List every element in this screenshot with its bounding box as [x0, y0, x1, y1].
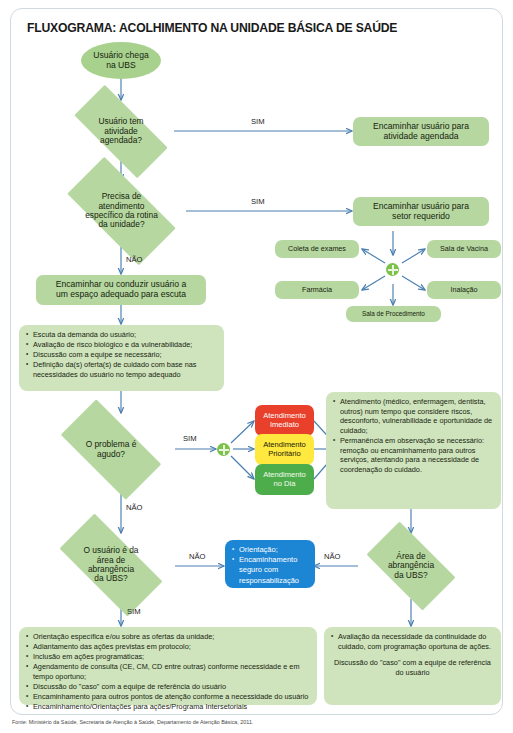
box-atendimento-prioritario[interactable]: Atendimento Prioritário [255, 434, 314, 465]
edge-label-sim-3: SIM [183, 434, 197, 443]
list-continuidade-cuidado-items: Avaliação da necessidade da continuidade… [331, 632, 494, 678]
list-item: Discussão com a equipe se necessário; [26, 350, 217, 360]
box-sala-de-vacina-label: Sala de Vacina [440, 245, 488, 253]
box-encaminhar-setor-requerido-label: Encaminhar usuário para setor requerido [373, 202, 469, 221]
list-item: Encaminhamento/Orientações para ações/Pr… [26, 702, 310, 712]
list-item: Permanência em observação se necessário:… [333, 436, 494, 475]
triage-hub-left-icon [217, 443, 230, 456]
list-escuta-acoes-items: Escuta da demanda do usuário; Avaliação … [26, 330, 217, 380]
node-start[interactable]: Usuário chega na UBS [81, 42, 161, 79]
box-encaminhar-espaco-escuta[interactable]: Encaminhar ou conduzir usuário a um espa… [36, 275, 206, 305]
node-decision-problema-agudo-label: O problema é agudo? [80, 440, 143, 459]
box-encaminhar-setor-requerido[interactable]: Encaminhar usuário para setor requerido [353, 197, 489, 226]
list-item: Encaminhamento seguro com responsabiliza… [232, 555, 308, 586]
list-continuidade-cuidado[interactable]: Avaliação da necessidade da continuidade… [324, 627, 501, 705]
list-item: Atendimento (médico, enfermagem, dentist… [333, 397, 494, 436]
flowchart-stage: Usuário chega na UBS Usuário tem ativida… [11, 9, 503, 715]
box-atendimento-no-dia-label: Atendimento no Dia [263, 471, 306, 488]
box-encaminhar-espaco-escuta-label: Encaminhar ou conduzir usuário a um espa… [56, 280, 186, 299]
box-atendimento-prioritario-label: Atendimento Prioritário [263, 441, 306, 458]
box-atendimento-no-dia[interactable]: Atendimento no Dia [255, 464, 314, 495]
box-sala-de-vacina[interactable]: Sala de Vacina [427, 240, 501, 258]
list-item: Escuta da demanda do usuário; [26, 330, 217, 340]
edge-label-nao-1: NÃO [126, 255, 142, 264]
edge-label-nao-4: NÃO [324, 552, 340, 561]
box-orientacao-encaminhamento[interactable]: Orientação; Encaminhamento seguro com re… [225, 540, 315, 588]
list-atendimento-agudo[interactable]: Atendimento (médico, enfermagem, dentist… [326, 392, 501, 509]
list-acoes-usuario-adscrito-items: Orientação específica e/ou sobre as ofer… [26, 632, 310, 712]
list-item: Adiantamento das ações previstas em prot… [26, 642, 310, 652]
list-item: Orientação; [232, 545, 308, 555]
edge-label-sim-1: SIM [251, 117, 265, 126]
list-item: Inclusão em ações programáticas; [26, 652, 310, 662]
box-inalacao-label: Inalação [450, 286, 477, 294]
list-acoes-usuario-adscrito[interactable]: Orientação específica e/ou sobre as ofer… [19, 627, 317, 705]
box-inalacao[interactable]: Inalação [427, 281, 501, 299]
box-atendimento-imediato-label: Atendimento Imediato [263, 412, 306, 429]
list-item: Avaliação de risco biológico e da vulner… [26, 340, 217, 350]
box-farmacia[interactable]: Farmácia [275, 281, 359, 299]
box-sala-de-procedimento[interactable]: Sala de Procedimento [346, 306, 441, 322]
node-decision-atividade-agendada-label: Usuário tem atividade agendada? [92, 117, 149, 145]
list-item: Discussão do "caso" com a equipe de refe… [26, 682, 310, 692]
node-decision-problema-agudo[interactable]: O problema é agudo? [46, 414, 176, 485]
edge-label-nao-2: NÃO [126, 503, 142, 512]
edge-label-sim-4: SIM [127, 607, 141, 616]
list-item: Avaliação da necessidade da continuidade… [331, 632, 494, 651]
sector-hub-icon [386, 263, 399, 276]
edge-label-sim-2: SIM [251, 197, 265, 206]
list-item: Definição da(s) oferta(s) de cuidado com… [26, 360, 217, 379]
list-item: Encaminhamento para outros pontos de ate… [26, 692, 310, 702]
box-orientacao-items: Orientação; Encaminhamento seguro com re… [232, 545, 308, 586]
node-decision-atividade-agendada[interactable]: Usuário tem atividade agendada? [58, 101, 184, 162]
node-decision-area-abrangencia-ubs-label: Área de abrangência da UBS? [382, 552, 440, 580]
node-start-label: Usuário chega na UBS [93, 51, 148, 70]
list-escuta-acoes[interactable]: Escuta da demanda do usuário; Avaliação … [19, 325, 224, 391]
box-farmacia-label: Farmácia [302, 286, 332, 294]
list-item: Agendamento de consulta (CE, CM, CD entr… [26, 662, 310, 681]
box-encaminhar-atividade-agendada[interactable]: Encaminhar usuário para atividade agenda… [353, 117, 489, 146]
list-atendimento-agudo-items: Atendimento (médico, enfermagem, dentist… [333, 397, 494, 475]
list-item-plain: Discussão do "caso" com a equipe de refe… [331, 658, 494, 677]
flowchart-card: FLUXOGRAMA: ACOLHIMENTO NA UNIDADE BÁSIC… [10, 8, 503, 715]
node-decision-atendimento-rotina[interactable]: Precisa de atendimento específico da rot… [50, 174, 193, 248]
node-decision-usuario-area-abrangencia-label: O usuário é da área de abrangência da UB… [78, 546, 145, 584]
edge-label-nao-3: NÃO [189, 552, 205, 561]
node-decision-atendimento-rotina-label: Precisa de atendimento específico da rot… [79, 192, 164, 230]
list-item: Orientação específica e/ou sobre as ofer… [26, 632, 310, 642]
node-decision-area-abrangencia-ubs[interactable]: Área de abrangência da UBS? [355, 533, 467, 599]
node-decision-usuario-area-abrangencia[interactable]: O usuário é da área de abrangência da UB… [43, 530, 179, 600]
box-atendimento-imediato[interactable]: Atendimento Imediato [255, 405, 314, 436]
box-encaminhar-atividade-agendada-label: Encaminhar usuário para atividade agenda… [373, 122, 469, 141]
box-coleta-de-exames[interactable]: Coleta de exames [275, 240, 359, 258]
box-sala-de-procedimento-label: Sala de Procedimento [362, 310, 425, 317]
source-note: Fonte: Ministério da Saúde, Secretaria d… [12, 719, 253, 725]
box-coleta-de-exames-label: Coleta de exames [288, 245, 346, 253]
